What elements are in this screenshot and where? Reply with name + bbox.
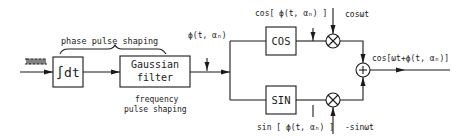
sin-carrier-label: -sinωt — [345, 123, 374, 132]
sin-block-label: SIN — [272, 94, 291, 106]
integrator-to-filter-arrow — [83, 70, 120, 75]
top-to-summer-arrow — [340, 41, 366, 63]
bottom-to-summer-arrow — [340, 77, 366, 100]
cos-phase-probe-arrow — [311, 28, 316, 41]
gaussian-filter-label-line1: Gaussian — [131, 59, 179, 70]
gmsk-modulator-diagram: ∫dt Gaussian filter phase pulse shaping … — [0, 0, 469, 139]
cos-block-label: COS — [272, 35, 291, 47]
phase-signal-label: ϕ(t, αₙ) — [188, 31, 227, 40]
sin-block: SIN — [266, 86, 296, 114]
input-arrow — [20, 70, 53, 75]
integrator-label: ∫dt — [56, 65, 79, 80]
square-wave-icon — [25, 59, 47, 64]
frequency-pulse-shaping-label-line1: frequency — [135, 95, 179, 104]
cos-phase-label: cos[ ϕ(t, αₙ) ] — [255, 9, 327, 18]
phase-pulse-shaping-label: phase pulse shaping — [61, 36, 158, 46]
integrator-block: ∫dt — [53, 57, 83, 87]
top-multiplier — [326, 34, 340, 48]
gaussian-filter-label-line2: filter — [137, 72, 173, 83]
filter-to-split-arrow — [190, 70, 230, 75]
output-label: cos[ωt+ϕ(t, αₙ)] — [372, 54, 449, 63]
cos-block: COS — [266, 27, 296, 55]
summer — [356, 63, 370, 77]
phase-signal-probe-arrow — [205, 58, 210, 71]
gaussian-filter-block: Gaussian filter — [120, 56, 190, 87]
frequency-pulse-shaping-label-line2: pulse shaping — [124, 105, 187, 114]
cos-carrier-arrow — [331, 8, 336, 34]
bottom-multiplier — [326, 93, 340, 107]
sin-phase-label: sin [ ϕ(t, αₙ) ] — [257, 123, 334, 132]
cos-carrier-label: cosωt — [345, 10, 369, 19]
split-lines — [230, 41, 266, 100]
phase-pulse-shaping-brace — [60, 45, 166, 54]
output-arrow — [370, 68, 450, 73]
